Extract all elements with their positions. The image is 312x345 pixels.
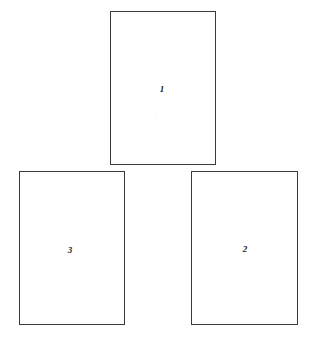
figure-rectangle-1-label: 1 xyxy=(160,85,165,94)
figure-rectangle-2-label: 2 xyxy=(243,245,248,254)
figure-rectangle-3-label: 3 xyxy=(68,246,73,255)
figure-canvas: 1 3 2 xyxy=(0,0,312,345)
